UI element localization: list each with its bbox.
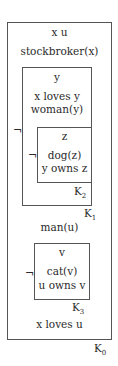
k2-condition-dog: dog(z) (37, 150, 92, 161)
k0-condition-loves: x loves u (7, 319, 112, 330)
k0-condition-man: man(u) (7, 222, 112, 233)
k1-condition-loves: x loves y (22, 91, 92, 102)
k1-label-sub: 1 (92, 214, 96, 222)
k3-referents: v (34, 247, 90, 258)
negation-k2: ¬ (28, 150, 37, 161)
k2-label: K2 (74, 186, 86, 200)
k0-referents: x u (7, 27, 112, 38)
k0-label-letter: K (94, 342, 102, 354)
k1-label-letter: K (84, 207, 92, 219)
k3-label-letter: K (72, 301, 80, 313)
k1-label: K1 (84, 208, 96, 222)
k0-label: K0 (94, 343, 106, 357)
k3-label-sub: 3 (80, 308, 84, 316)
k2-condition-owns: y owns z (37, 163, 92, 174)
k3-condition-owns: u owns v (34, 280, 90, 291)
k3-condition-cat: cat(v) (34, 266, 90, 277)
negation-k1: ¬ (13, 125, 22, 136)
negation-k3: ¬ (25, 268, 34, 279)
k3-label: K3 (72, 302, 84, 316)
k2-label-letter: K (74, 185, 82, 197)
k2-label-sub: 2 (82, 192, 86, 200)
k1-condition-woman: woman(y) (22, 104, 92, 115)
k0-condition-stockbroker: stockbroker(x) (7, 46, 112, 57)
k1-referents: y (22, 72, 92, 83)
k2-referents: z (37, 131, 92, 142)
k0-label-sub: 0 (102, 349, 106, 357)
